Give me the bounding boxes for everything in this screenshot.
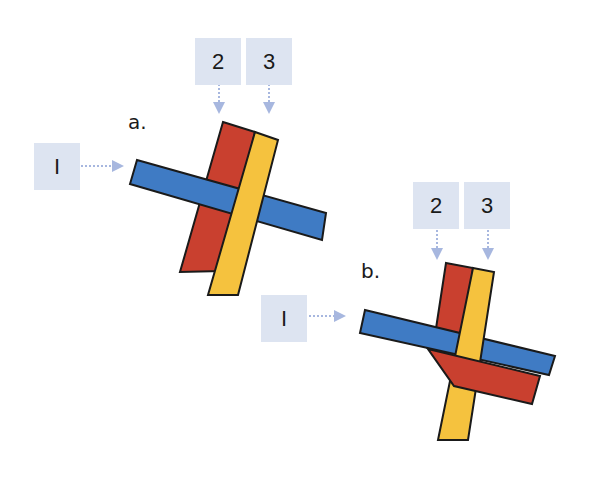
weaving-diagram <box>0 0 591 481</box>
panel-a-label-strand-3: 3 <box>246 38 292 85</box>
panel-b-label-strand-1: I <box>261 295 307 342</box>
panel-b-step-label: b. <box>361 259 380 283</box>
panel-b-strands <box>360 263 555 440</box>
panel-b-label-strand-3: 3 <box>464 182 510 229</box>
panel-a-strands <box>130 122 326 295</box>
panel-a-label-strand-2: 2 <box>195 38 241 85</box>
panel-a-label-strand-1: I <box>34 143 80 190</box>
panel-b-label-strand-2: 2 <box>413 182 459 229</box>
panel-a-step-label: a. <box>128 110 147 134</box>
